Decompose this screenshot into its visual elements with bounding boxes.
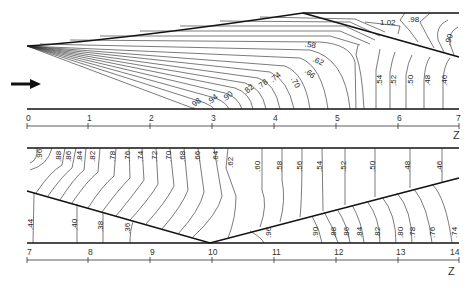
lower-wall [27,178,459,243]
svg-text:.86: .86 [64,150,73,162]
svg-text:.96: .96 [35,148,44,160]
svg-text:.88: .88 [329,226,338,238]
svg-text:.98: .98 [189,96,204,110]
svg-text:.74: .74 [136,150,145,162]
fan-isolines [27,17,385,109]
svg-text:.88: .88 [54,150,63,162]
svg-text:.98: .98 [408,15,420,24]
svg-text:.58: .58 [304,39,317,50]
svg-text:.66: .66 [193,150,202,162]
svg-text:.46: .46 [440,74,449,86]
svg-text:.54: .54 [375,74,384,86]
svg-text:.78: .78 [255,77,270,91]
svg-text:.50: .50 [368,160,377,172]
svg-text:.72: .72 [150,150,159,162]
svg-text:7: 7 [27,247,32,257]
svg-text:.44: .44 [26,218,35,230]
svg-text:Z: Z [453,129,460,141]
bottom-panel: .96 .88 .86 .84 .82 .78 .76 .74 .72 .70 … [26,148,460,277]
top-z-axis: 0 1 2 3 4 5 6 7 Z [26,113,461,141]
svg-text:Z: Z [448,265,455,277]
svg-text:.52: .52 [339,160,348,172]
svg-text:13: 13 [396,247,406,257]
svg-text:.78: .78 [408,226,417,238]
svg-text:.90: .90 [443,32,455,46]
svg-text:.48: .48 [423,74,432,86]
svg-text:9: 9 [150,247,155,257]
bottom-lower-right-labels: .96 .90 .88 .86 .84 .82 .80 .78 .76 .74 [264,226,459,238]
svg-text:.52: .52 [389,74,398,86]
svg-text:7: 7 [456,113,461,123]
svg-text:.82: .82 [88,150,97,162]
svg-text:8: 8 [88,247,93,257]
svg-text:11: 11 [272,247,281,257]
svg-text:.66: .66 [303,66,318,80]
svg-text:10: 10 [208,247,218,257]
svg-text:.86: .86 [342,226,351,238]
svg-text:14: 14 [450,247,460,257]
svg-text:.54: .54 [315,160,324,172]
svg-text:.90: .90 [311,226,320,238]
svg-text:.46: .46 [435,160,444,172]
downstream-isolines [356,45,450,109]
svg-text:.50: .50 [406,74,415,86]
svg-text:1: 1 [87,113,92,123]
svg-text:1.02: 1.02 [380,18,396,27]
svg-text:.82: .82 [241,82,256,96]
svg-text:12: 12 [334,247,344,257]
bottom-upper-labels: .96 .88 .86 .84 .82 .78 .76 .74 .72 .70 … [35,148,444,172]
svg-text:6: 6 [397,113,402,123]
svg-text:.78: .78 [108,150,117,162]
svg-text:.70: .70 [289,76,303,91]
svg-text:.76: .76 [428,226,437,238]
svg-text:.84: .84 [75,150,84,162]
svg-text:.76: .76 [123,150,132,162]
svg-text:.64: .64 [211,150,220,162]
svg-text:2: 2 [149,113,154,123]
svg-text:.62: .62 [311,55,325,68]
lower-left-isolines [33,193,133,243]
svg-text:.56: .56 [295,160,304,172]
svg-text:.80: .80 [396,226,405,238]
nozzle-contour-diagram: .98 .94 .90 .82 .78 .74 .70 .66 .62 .58 … [0,0,475,288]
svg-text:.82: .82 [373,226,382,238]
bottom-z-axis: 7 8 9 10 11 12 13 14 Z [27,247,460,277]
svg-text:.62: .62 [226,156,235,168]
svg-text:0: 0 [26,113,31,123]
svg-text:5: 5 [335,113,340,123]
svg-text:.36: .36 [123,222,132,234]
svg-text:.68: .68 [178,150,187,162]
svg-text:.96: .96 [264,226,273,238]
lower-right-isolines [250,184,452,243]
svg-text:.74: .74 [450,226,459,238]
flow-arrow-icon [11,79,41,89]
svg-text:.48: .48 [403,160,412,172]
svg-text:3: 3 [211,113,216,123]
svg-text:.40: .40 [70,218,79,230]
bottom-lower-left-labels: .44 .40 .38 .36 [26,218,132,234]
top-panel: .98 .94 .90 .82 .78 .74 .70 .66 .62 .58 … [11,13,461,141]
svg-text:.84: .84 [355,226,364,238]
svg-text:.70: .70 [164,150,173,162]
svg-text:.60: .60 [253,160,262,172]
svg-text:.90: .90 [220,89,235,103]
svg-text:.58: .58 [275,160,284,172]
svg-text:.38: .38 [96,220,105,232]
svg-text:4: 4 [273,113,278,123]
top-contour-labels: .98 .94 .90 .82 .78 .74 .70 .66 .62 .58 … [189,15,455,110]
